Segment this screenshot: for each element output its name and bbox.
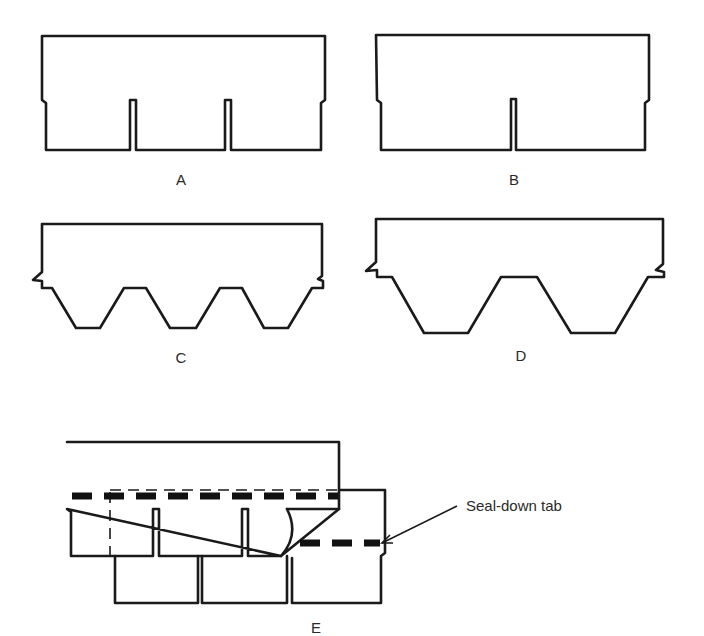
lower-shingle-1 bbox=[115, 556, 198, 603]
lower-shingle-2 bbox=[202, 556, 287, 603]
figure-e-assembly bbox=[67, 442, 457, 603]
figure-c-label: C bbox=[161, 349, 201, 366]
seal-down-tab-callout: Seal-down tab bbox=[466, 497, 562, 514]
figure-d-shingle bbox=[366, 219, 664, 333]
figure-b-shingle bbox=[376, 35, 649, 150]
figure-b-label: B bbox=[494, 171, 534, 188]
figure-c-shingle bbox=[33, 224, 323, 328]
figure-d-label: D bbox=[501, 347, 541, 364]
callout-arrow-line bbox=[382, 506, 457, 543]
curled-corner bbox=[281, 509, 339, 556]
figure-a-label: A bbox=[161, 171, 201, 188]
figure-a-shingle bbox=[42, 36, 325, 150]
figure-e-label: E bbox=[296, 619, 336, 636]
